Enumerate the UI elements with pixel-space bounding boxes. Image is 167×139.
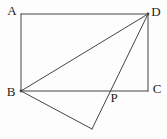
vertex-dot-D	[147, 13, 150, 16]
geometry-figure: ADBCP	[0, 0, 167, 139]
vertex-label-P: P	[110, 90, 117, 105]
segment-BQ	[21, 91, 92, 129]
vertex-dot-B	[20, 90, 23, 93]
vertex-label-B: B	[7, 84, 16, 99]
vertex-label-A: A	[7, 3, 17, 18]
vertex-label-C: C	[153, 81, 162, 96]
vertex-label-D: D	[151, 4, 160, 19]
geometry-diagram-svg: ADBCP	[0, 0, 167, 139]
